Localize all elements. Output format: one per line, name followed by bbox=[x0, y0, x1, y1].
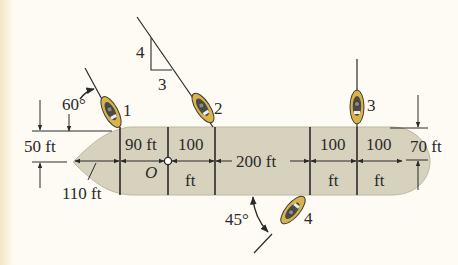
origin-label: O bbox=[145, 164, 157, 181]
tugboat-2-label: 2 bbox=[214, 100, 223, 117]
seg3-length-label: 200 ft bbox=[236, 153, 276, 170]
right-offset-label: 70 ft bbox=[410, 138, 442, 155]
tugboat-4-label: 4 bbox=[304, 210, 313, 227]
seg4-length-top-label: 100 bbox=[320, 136, 346, 153]
tugboat-4 bbox=[253, 192, 309, 253]
tugboat-1-label: 1 bbox=[123, 102, 132, 119]
left-offset-label: 50 ft bbox=[24, 138, 56, 155]
seg4-length-bottom-label: ft bbox=[328, 172, 338, 189]
seg2-length-bottom-label: ft bbox=[185, 172, 195, 189]
seg5-length-bottom-label: ft bbox=[374, 172, 384, 189]
tugboat-2 bbox=[137, 17, 218, 127]
seg2-length-top-label: 100 bbox=[178, 136, 204, 153]
slope-run-label: 3 bbox=[158, 76, 167, 93]
origin-point bbox=[164, 157, 171, 164]
angle-label-60: 60° bbox=[62, 96, 86, 113]
seg1-length-label: 90 ft bbox=[125, 136, 157, 153]
slope-rise-label: 4 bbox=[136, 44, 145, 61]
seg5-length-top-label: 100 bbox=[366, 136, 392, 153]
tugboat-3-label: 3 bbox=[367, 97, 376, 114]
bow-length-label: 110 ft bbox=[62, 185, 102, 202]
angle-label-45: 45° bbox=[225, 211, 249, 228]
tugboat-3 bbox=[350, 59, 364, 127]
